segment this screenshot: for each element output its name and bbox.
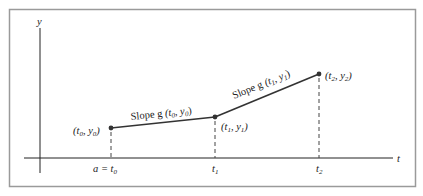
tick-label-t1: t1 [212, 163, 218, 176]
tick-label-t2: t2 [316, 163, 323, 176]
label-point-1: (t1, y1) [221, 121, 248, 134]
y-axis-label: y [36, 16, 42, 27]
label-point-0: (t0, y0) [73, 125, 100, 138]
t-axis-label: t [397, 153, 401, 164]
point-t2-y2 [317, 72, 322, 77]
label-point-2: (t2, y2) [325, 70, 352, 83]
figure-frame [10, 10, 416, 187]
tick-label-t0: a = t0 [93, 163, 118, 176]
point-t1-y1 [213, 115, 218, 120]
point-t0-y0 [109, 126, 114, 131]
euler-method-diagram: y t (t0, y0) (t1, y1) (t2, y2) Slope g (… [0, 0, 423, 196]
segment-0 [111, 117, 215, 128]
